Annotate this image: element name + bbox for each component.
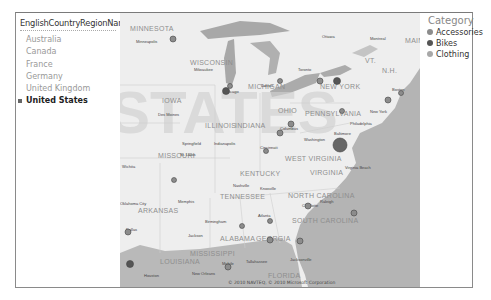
slicer-item-label: United Kingdom xyxy=(26,84,90,93)
map-copyright: © 2010 NAVTEQ, © 2010 Microsoft Corporat… xyxy=(228,280,335,285)
selected-marker-icon xyxy=(18,99,22,103)
svg-text:Columbus: Columbus xyxy=(280,126,298,131)
svg-text:Ottawa: Ottawa xyxy=(322,34,335,39)
slicer-item-canada[interactable]: Canada xyxy=(16,46,119,58)
slicer-item-france[interactable]: France xyxy=(16,59,119,71)
slicer-item-label: France xyxy=(26,60,53,69)
svg-text:NEW YORK: NEW YORK xyxy=(320,83,360,90)
svg-text:Indianapolis: Indianapolis xyxy=(214,141,235,146)
slicer-list: Australia Canada France Germany United K… xyxy=(16,34,119,108)
svg-text:WEST VIRGINIA: WEST VIRGINIA xyxy=(285,155,342,162)
svg-text:LOUISIANA: LOUISIANA xyxy=(160,258,200,265)
legend-label: Accessories xyxy=(436,28,483,37)
svg-text:Baltimore: Baltimore xyxy=(334,131,352,136)
svg-text:OHIO: OHIO xyxy=(278,107,297,114)
legend-dot-icon xyxy=(427,51,433,57)
svg-text:Virginia Beach: Virginia Beach xyxy=(345,165,371,170)
svg-text:VT.: VT. xyxy=(365,57,376,64)
slicer-item-united-states[interactable]: United States xyxy=(16,95,119,107)
svg-text:MINNESOTA: MINNESOTA xyxy=(130,25,174,32)
svg-text:Detroit: Detroit xyxy=(261,83,274,88)
legend-item-bikes[interactable]: Bikes xyxy=(424,38,472,49)
svg-text:WISCONSIN: WISCONSIN xyxy=(190,59,233,66)
legend-item-accessories[interactable]: Accessories xyxy=(424,27,472,38)
slicer-title: EnglishCountryRegionName xyxy=(20,18,116,31)
bubble-accessories xyxy=(170,36,176,42)
slicer-item-label: Canada xyxy=(26,47,56,56)
svg-text:MISSISSIPPI: MISSISSIPPI xyxy=(190,250,235,257)
svg-text:Birmingham: Birmingham xyxy=(205,219,227,224)
svg-text:Memphis: Memphis xyxy=(178,199,194,204)
svg-text:Oklahoma City: Oklahoma City xyxy=(120,201,146,206)
legend-item-clothing[interactable]: Clothing xyxy=(424,49,472,60)
map-canvas: STATES MINNESOTA WISCONSIN MICHIGAN IOWA… xyxy=(120,13,420,287)
svg-text:Wichita: Wichita xyxy=(122,164,136,169)
svg-text:Atlanta: Atlanta xyxy=(258,213,271,218)
slicer-item-label: United States xyxy=(26,96,88,105)
svg-text:Knoxville: Knoxville xyxy=(260,186,277,191)
slicer-item-germany[interactable]: Germany xyxy=(16,71,119,83)
svg-text:Montreal: Montreal xyxy=(370,36,386,41)
svg-text:ILLINOIS: ILLINOIS xyxy=(205,122,236,129)
svg-text:ALABAMA: ALABAMA xyxy=(220,235,255,242)
svg-text:FLORIDA: FLORIDA xyxy=(268,272,300,279)
svg-text:Toronto: Toronto xyxy=(298,67,312,72)
slicer-item-label: Germany xyxy=(26,72,63,81)
svg-text:Philadelphia: Philadelphia xyxy=(350,121,373,126)
svg-text:NORTH CAROLINA: NORTH CAROLINA xyxy=(288,192,355,199)
svg-text:New Orleans: New Orleans xyxy=(192,271,215,276)
svg-text:SOUTH CAROLINA: SOUTH CAROLINA xyxy=(292,217,358,224)
svg-text:KENTUCKY: KENTUCKY xyxy=(240,170,281,177)
map-legend: Category Accessories Bikes Clothing xyxy=(424,13,472,73)
svg-text:N.H.: N.H. xyxy=(382,67,397,74)
svg-text:St. Louis: St. Louis xyxy=(180,152,196,157)
slicer-item-label: Australia xyxy=(26,35,61,44)
svg-text:INDIANA: INDIANA xyxy=(235,122,266,129)
legend-dot-icon xyxy=(427,29,433,35)
legend-label: Bikes xyxy=(436,39,457,48)
svg-text:Minneapolis: Minneapolis xyxy=(136,39,157,44)
svg-text:Jacksonville: Jacksonville xyxy=(290,257,312,262)
legend-dot-icon xyxy=(427,40,433,46)
country-slicer: EnglishCountryRegionName Australia Canad… xyxy=(16,13,119,287)
svg-text:Tallahassee: Tallahassee xyxy=(246,259,268,264)
svg-text:Raleigh: Raleigh xyxy=(320,199,334,204)
svg-text:PENNSYLVANIA: PENNSYLVANIA xyxy=(305,110,361,117)
svg-text:VIRGINIA: VIRGINIA xyxy=(310,169,343,176)
svg-text:Milwaukee: Milwaukee xyxy=(194,67,214,72)
svg-text:Houston: Houston xyxy=(144,273,159,278)
svg-text:Nashville: Nashville xyxy=(233,183,250,188)
svg-text:Jackson: Jackson xyxy=(188,233,203,238)
svg-text:Cincinnati: Cincinnati xyxy=(260,145,278,150)
svg-text:MAINE: MAINE xyxy=(405,37,420,44)
map-visual[interactable]: STATES MINNESOTA WISCONSIN MICHIGAN IOWA… xyxy=(120,13,420,287)
svg-text:Des Moines: Des Moines xyxy=(158,112,179,117)
svg-text:Springfield: Springfield xyxy=(182,141,201,146)
svg-text:TENNESSEE: TENNESSEE xyxy=(220,193,265,200)
legend-title: Category xyxy=(428,15,472,26)
svg-text:IOWA: IOWA xyxy=(162,97,182,104)
svg-text:GEORGIA: GEORGIA xyxy=(256,235,291,242)
legend-label: Clothing xyxy=(436,50,469,59)
slicer-item-united-kingdom[interactable]: United Kingdom xyxy=(16,83,119,95)
bubble-bikes-washington xyxy=(333,138,347,152)
slicer-item-australia[interactable]: Australia xyxy=(16,34,119,46)
svg-text:New York: New York xyxy=(370,109,387,114)
svg-text:Washington: Washington xyxy=(304,137,325,142)
svg-text:ARKANSAS: ARKANSAS xyxy=(138,207,179,214)
